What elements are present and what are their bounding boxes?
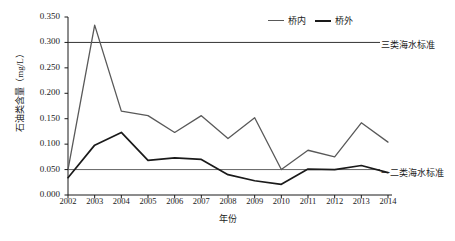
data-series-group (68, 25, 388, 184)
x-tick-label: 2014 (373, 196, 403, 206)
x-tick-label: 2004 (106, 196, 136, 206)
x-tick-label: 2010 (266, 196, 296, 206)
legend-item-qiaonei[interactable]: 桥内 (268, 14, 306, 27)
x-tick-label: 2007 (186, 196, 216, 206)
x-tick-label: 2003 (80, 196, 110, 206)
legend: 桥内 桥外 (268, 14, 353, 27)
reference-label-class12: 一二类海水标准 (381, 166, 444, 179)
x-tick-label: 2009 (240, 196, 270, 206)
x-tick-label: 2005 (133, 196, 163, 206)
x-tick-label: 2012 (320, 196, 350, 206)
x-tick-label: 2013 (346, 196, 376, 206)
x-axis-title: 年份 (68, 212, 388, 225)
reference-label-class3: 三类海水标准 (381, 38, 435, 51)
legend-item-qiaowai[interactable]: 桥外 (315, 14, 353, 27)
legend-swatch-qiaonei (268, 20, 284, 21)
x-tick-label: 2008 (213, 196, 243, 206)
legend-label-qiaonei: 桥内 (288, 14, 306, 27)
reference-lines (68, 42, 380, 169)
x-tick-label: 2006 (160, 196, 190, 206)
x-tick-label: 2011 (293, 196, 323, 206)
x-axis-tick-labels: 2002200320042005200620072008200920102011… (68, 196, 388, 210)
x-tick-label: 2002 (53, 196, 83, 206)
legend-label-qiaowai: 桥外 (335, 14, 353, 27)
legend-swatch-qiaowai (315, 20, 331, 22)
oil-content-line-chart: 石油类含量（mg/L） 0.3500.3000.2500.2000.1500.1… (0, 0, 455, 241)
y-axis-ticks (65, 17, 69, 195)
